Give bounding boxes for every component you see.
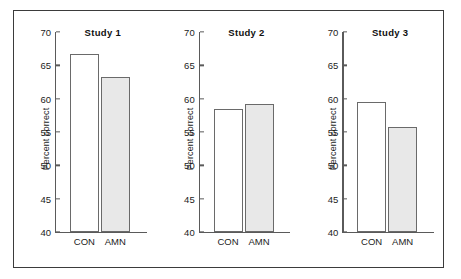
x-axis-baseline xyxy=(199,232,291,233)
x-axis-baseline xyxy=(342,232,434,233)
panel-title: Study 1 xyxy=(85,27,121,38)
x-axis-category-labels: CONAMN xyxy=(199,236,291,250)
figure: Percent correct70656055504540CONAMNStudy… xyxy=(0,0,461,279)
y-tick-label: 45 xyxy=(184,193,195,204)
y-tick-label: 70 xyxy=(184,27,195,38)
panel-title: Study 3 xyxy=(372,27,408,38)
y-tick-label: 55 xyxy=(40,127,51,138)
bar-amn xyxy=(245,104,274,232)
y-tick-label: 65 xyxy=(184,60,195,71)
x-tick-label-amn: AMN xyxy=(392,236,413,247)
chart-panel-study-3: Percent correct70656055504540CONAMNStudy… xyxy=(300,10,444,268)
y-tick-label: 55 xyxy=(184,127,195,138)
plot-area xyxy=(55,32,147,232)
panel-title: Study 2 xyxy=(228,27,264,38)
plot-area xyxy=(199,32,291,232)
y-tick-label: 60 xyxy=(40,93,51,104)
x-tick-label-con: CON xyxy=(217,236,238,247)
y-tick-label: 55 xyxy=(328,127,339,138)
y-tick-label: 50 xyxy=(40,160,51,171)
y-tick-label: 65 xyxy=(40,60,51,71)
bar-con xyxy=(357,102,386,232)
y-axis-tick-labels: 70656055504540 xyxy=(29,32,51,232)
y-tick-label: 40 xyxy=(40,227,51,238)
plot-area xyxy=(342,32,434,232)
chart-panel-study-1: Percent correct70656055504540CONAMNStudy… xyxy=(13,10,157,268)
panel-container: Percent correct70656055504540CONAMNStudy… xyxy=(13,10,444,268)
bar-amn xyxy=(388,127,417,232)
bar-con xyxy=(214,109,243,232)
y-tick-label: 70 xyxy=(40,27,51,38)
y-tick-label: 65 xyxy=(328,60,339,71)
bar-con xyxy=(70,54,99,232)
x-tick-label-con: CON xyxy=(74,236,95,247)
x-axis-baseline xyxy=(55,232,147,233)
y-tick-label: 45 xyxy=(40,193,51,204)
y-tick-label: 70 xyxy=(328,27,339,38)
y-axis-tick-labels: 70656055504540 xyxy=(316,32,338,232)
y-tick-label: 40 xyxy=(184,227,195,238)
y-tick-label: 50 xyxy=(184,160,195,171)
x-tick-label-amn: AMN xyxy=(248,236,269,247)
y-tick-label: 50 xyxy=(328,160,339,171)
x-tick-label-con: CON xyxy=(361,236,382,247)
y-tick-label: 60 xyxy=(328,93,339,104)
x-tick-label-amn: AMN xyxy=(105,236,126,247)
y-tick-label: 60 xyxy=(184,93,195,104)
x-axis-category-labels: CONAMN xyxy=(55,236,147,250)
y-tick-label: 45 xyxy=(328,193,339,204)
chart-panel-study-2: Percent correct70656055504540CONAMNStudy… xyxy=(157,10,301,268)
x-axis-category-labels: CONAMN xyxy=(342,236,434,250)
bar-amn xyxy=(101,77,130,232)
y-tick-label: 40 xyxy=(328,227,339,238)
y-axis-tick-labels: 70656055504540 xyxy=(173,32,195,232)
